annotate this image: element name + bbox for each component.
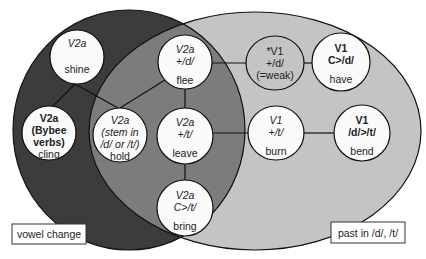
- node-text-have: have: [330, 73, 353, 85]
- label-past-in-d-t: past in /d/, /t/: [331, 222, 405, 243]
- node-leave: V2a+/t/leave: [157, 108, 213, 164]
- venn-diagram: V2ashineV2a(Bybeeverbs)clingV2a(stem in/…: [0, 0, 426, 259]
- node-text-cling: verbs): [33, 136, 65, 148]
- node-text-cling: cling: [38, 148, 60, 160]
- node-text-burn: burn: [265, 145, 286, 157]
- node-cling: V2a(Bybeeverbs)cling: [22, 106, 76, 160]
- node-text-bend: /d/>/t/: [348, 126, 376, 138]
- node-text-cling: (Bybee: [31, 124, 66, 136]
- node-text-flee: +/d/: [176, 55, 195, 67]
- node-text-hold: V2a: [111, 114, 130, 126]
- node-bring: V2aC>/t/bring: [157, 180, 213, 236]
- node-text-hold: (stem in: [101, 126, 139, 138]
- node-burn: V1+/t/burn: [248, 106, 304, 160]
- node-hold: V2a(stem in/d/ or /t/)hold: [93, 108, 147, 162]
- diagram-canvas: V2ashineV2a(Bybeeverbs)clingV2a(stem in/…: [0, 0, 426, 259]
- node-text-bend: bend: [350, 145, 374, 157]
- node-text-flee: flee: [177, 74, 194, 86]
- node-text-shine: V2a: [68, 37, 87, 49]
- node-text-bring: V2a: [176, 189, 195, 201]
- node-text-have: V1: [335, 42, 348, 54]
- node-bend: V1/d/>/t/bend: [334, 105, 390, 161]
- node-text-bring: C>/t/: [174, 201, 198, 213]
- label-text-past-in-d-t: past in /d/, /t/: [338, 227, 398, 239]
- node-text-shine: shine: [64, 63, 89, 75]
- node-have: V1C>/d/have: [312, 33, 370, 91]
- node-text-weak: +/d/: [266, 57, 284, 69]
- node-text-leave: V2a: [176, 116, 195, 128]
- node-text-have: C>/d/: [328, 54, 354, 66]
- node-text-weak: *V1: [267, 45, 284, 57]
- node-text-flee: V2a: [176, 43, 195, 55]
- node-weak: *V1+/d/(=weak): [246, 36, 304, 90]
- node-text-burn: +/t/: [269, 126, 285, 138]
- node-text-weak: (=weak): [256, 69, 294, 81]
- node-text-cling: V2a: [40, 112, 59, 124]
- node-text-hold: /d/ or /t/): [99, 138, 139, 150]
- node-text-leave: +/t/: [178, 128, 194, 140]
- node-text-bend: V1: [356, 114, 369, 126]
- label-vowel-change: vowel change: [12, 224, 86, 244]
- node-text-burn: V1: [270, 114, 283, 126]
- node-text-hold: hold: [110, 150, 130, 162]
- node-shine: V2ashine: [50, 30, 104, 84]
- node-text-leave: leave: [172, 147, 197, 159]
- label-text-vowel-change: vowel change: [17, 228, 81, 240]
- node-flee: V2a+/d/flee: [158, 35, 212, 89]
- node-text-bring: bring: [173, 220, 197, 232]
